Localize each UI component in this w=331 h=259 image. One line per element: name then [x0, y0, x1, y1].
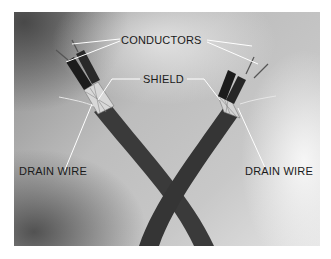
cable-illustration [14, 12, 320, 246]
shield-label: SHIELD [143, 73, 184, 85]
drain-wire-left-label: DRAIN WIRE [19, 165, 87, 177]
drain-wire-right-label: DRAIN WIRE [245, 165, 313, 177]
cable-photo [14, 12, 320, 246]
conductors-label: CONDUCTORS [121, 34, 202, 46]
